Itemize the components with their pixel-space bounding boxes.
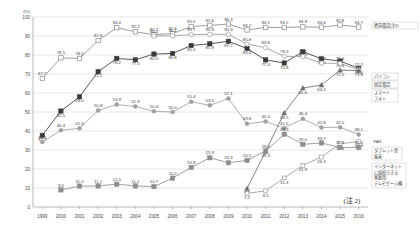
data-point-label: 26.3	[317, 159, 326, 164]
data-point-label: 34.2	[38, 135, 47, 140]
data-point-label: 85.8	[243, 37, 252, 42]
data-point-marker	[189, 32, 193, 36]
data-point-label: 77.5	[131, 61, 140, 66]
y-axis-label: (%)	[23, 9, 30, 14]
x-axis-tick: 2010	[242, 214, 253, 219]
y-axis-tick: 80	[25, 53, 31, 58]
data-point-label: 79.3	[280, 49, 289, 54]
x-axis-tick: 2004	[130, 214, 141, 219]
data-point-label: 49.5	[280, 115, 289, 120]
y-axis-tick: 10	[25, 186, 31, 191]
series-line	[61, 134, 359, 190]
data-point-label: 25.9	[206, 150, 215, 155]
x-axis-tick: 2009	[223, 214, 234, 219]
data-point-marker	[226, 161, 230, 165]
data-point-marker	[59, 56, 63, 60]
data-point-marker	[264, 120, 268, 124]
y-axis-tick: 90	[25, 34, 31, 39]
legend-entry-label: テレビゲーム機	[374, 180, 403, 187]
data-point-marker	[59, 188, 63, 192]
data-point-marker	[338, 61, 342, 65]
data-point-marker	[245, 28, 249, 32]
data-point-label: 21.9	[299, 167, 308, 172]
data-point-label: 80.5	[150, 56, 159, 61]
data-point-label: 50.4	[150, 104, 159, 109]
data-point-label: 11.1	[131, 179, 140, 184]
data-point-label: 38.1	[355, 127, 364, 132]
data-point-label: 90.7	[187, 27, 196, 32]
legend-entry-label: 端末	[374, 153, 383, 160]
legend-entry-label: 携帯電話(注1)	[374, 22, 400, 29]
x-axis-tick: 2015	[335, 214, 346, 219]
legend-entry-label: パソコン	[374, 74, 390, 79]
data-point-label: 94.5	[280, 20, 289, 25]
data-point-label: 15.2	[168, 171, 177, 176]
data-point-label: 33.7	[317, 136, 326, 141]
data-point-label: 94.7	[355, 20, 364, 25]
series-line	[42, 99, 358, 143]
y-axis-tick: 60	[25, 91, 31, 96]
x-axis-tick: 2013	[298, 214, 309, 219]
x-axis-tick: 2003	[112, 214, 123, 219]
data-point-marker	[208, 103, 212, 107]
chart-note: (注 2)	[344, 196, 362, 205]
data-point-label: 43.8	[243, 116, 252, 121]
data-point-label: 87.6	[94, 33, 103, 38]
data-point-label: 83.4	[243, 50, 252, 55]
data-point-marker	[282, 25, 286, 29]
data-point-marker	[115, 182, 119, 186]
data-point-marker	[96, 108, 100, 112]
data-point-marker	[301, 25, 305, 29]
data-point-marker	[170, 34, 174, 38]
x-axis-tick: 2016	[354, 214, 365, 219]
data-point-label: 95.8	[336, 18, 345, 23]
data-point-label: 15.3	[280, 180, 289, 185]
x-axis-tick: 1999	[37, 214, 48, 219]
y-axis-tick: 100	[22, 15, 30, 20]
data-point-marker	[40, 140, 44, 144]
data-point-marker	[208, 156, 212, 160]
y-axis-tick: 0	[27, 205, 30, 210]
data-point-label: 90.1	[168, 28, 177, 33]
data-point-marker	[263, 46, 267, 50]
data-point-label: 62.6	[299, 90, 308, 95]
data-point-marker	[133, 184, 137, 188]
data-point-marker	[170, 176, 174, 180]
x-axis-tick: 2014	[316, 214, 327, 219]
data-point-label: 71.8	[355, 72, 364, 77]
data-point-marker	[208, 32, 212, 36]
data-point-label: 71.2	[94, 73, 103, 78]
data-point-marker	[245, 158, 249, 162]
series-line	[42, 24, 358, 78]
data-point-label: 90.9	[206, 27, 215, 32]
data-point-marker	[226, 97, 230, 101]
data-point-label: 11.1	[94, 179, 103, 184]
legend-entry-label: フォン	[374, 96, 386, 101]
data-point-label: 24.5	[243, 153, 252, 158]
data-point-label: 78.5	[57, 50, 66, 55]
data-point-label: 41.8	[317, 120, 326, 125]
legend-entry-label: FAX	[374, 139, 382, 144]
data-point-marker	[356, 25, 360, 29]
data-point-label: 90.0	[150, 29, 159, 34]
data-point-label: 94.6	[317, 20, 326, 25]
data-point-label: 31.3	[336, 140, 345, 145]
data-point-label: 95.0	[187, 19, 196, 24]
data-point-label: 41.4	[75, 121, 84, 126]
data-point-label: 50.5	[57, 113, 66, 118]
data-point-label: 55.4	[187, 94, 196, 99]
x-axis-tick: 2011	[261, 214, 271, 219]
y-axis-tick: 40	[25, 129, 31, 134]
data-point-label: 78.2	[113, 60, 122, 65]
data-point-label: 33.0	[299, 137, 308, 142]
data-point-marker	[338, 125, 342, 129]
data-point-marker	[301, 142, 305, 146]
series-line	[154, 34, 359, 70]
data-point-marker	[189, 100, 193, 104]
data-point-label: 53.5	[206, 98, 215, 103]
data-point-label: 90.9	[224, 27, 233, 32]
data-point-marker	[282, 132, 286, 136]
x-axis-tick: 2001	[74, 214, 85, 219]
y-axis-tick: 30	[25, 148, 31, 153]
data-point-label: 23.3	[224, 155, 233, 160]
